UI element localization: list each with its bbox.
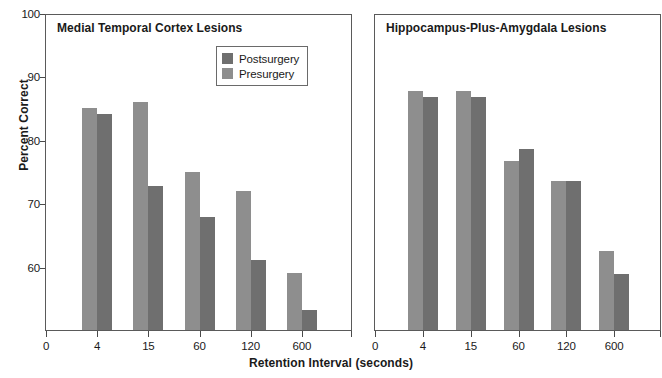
x-tick-label-600: 600 [293,340,312,352]
bar-presurgery-60 [504,161,519,330]
panel-hippocampus-plus-amygdala: Hippocampus-Plus-Amygdala Lesions [374,14,661,331]
x-tick-mark-60 [519,331,520,337]
bar-postsurgery-120 [566,181,581,330]
x-tick-mark-4 [97,331,98,337]
bar-postsurgery-15 [471,97,486,330]
x-tick-mark-4 [423,331,424,337]
bar-postsurgery-4 [423,97,438,330]
x-tick-mark-600 [614,331,615,337]
y-axis-label: Percent Correct [17,45,31,205]
plot-area-right [375,15,660,330]
x-tick-mark-120 [251,331,252,337]
x-tick-label-60: 60 [512,340,524,352]
legend-item-postsurgery: Postsurgery [222,51,299,66]
y-tick-label-100: 100 [21,8,40,20]
x-tick-label-60: 60 [193,340,205,352]
bar-postsurgery-15 [148,186,163,330]
legend-item-presurgery: Presurgery [222,66,299,81]
bar-group-4 [82,15,112,330]
x-tick-mark-60 [200,331,201,337]
bar-presurgery-15 [133,102,148,330]
x-tick-label-120: 120 [241,340,260,352]
x-tick-mark-0 [46,331,47,337]
x-tick-label-15: 15 [142,340,154,352]
x-tick-mark-600 [302,331,303,337]
panel-medial-temporal-cortex: Medial Temporal Cortex Lesions Postsurge… [45,14,352,331]
bar-group-4 [408,15,438,330]
bar-group-15 [133,15,163,330]
x-tick-mark-end [351,331,352,337]
bar-group-600 [599,15,629,330]
x-tick-label-4: 4 [420,340,426,352]
bar-postsurgery-4 [97,114,112,330]
x-tick-label-0: 0 [372,340,378,352]
legend-label-postsurgery: Postsurgery [239,53,299,65]
bar-group-15 [456,15,486,330]
x-tick-label-0: 0 [43,340,49,352]
y-tick-label-60: 60 [28,262,40,274]
x-tick-label-120: 120 [557,340,576,352]
bar-presurgery-120 [551,181,566,330]
x-axis-label: Retention Interval (seconds) [0,356,662,370]
x-tick-label-15: 15 [464,340,476,352]
legend-swatch-presurgery [222,68,233,79]
legend-label-presurgery: Presurgery [239,68,294,80]
bar-postsurgery-600 [614,274,629,330]
bar-postsurgery-600 [302,310,317,330]
legend: Postsurgery Presurgery [216,46,308,86]
legend-swatch-postsurgery [222,53,233,64]
x-tick-mark-0 [375,331,376,337]
bar-presurgery-600 [599,251,614,330]
x-tick-label-600: 600 [605,340,624,352]
x-tick-mark-120 [566,331,567,337]
x-tick-mark-15 [148,331,149,337]
bar-postsurgery-120 [251,260,266,330]
bar-presurgery-4 [82,108,97,330]
bar-group-60 [185,15,215,330]
x-tick-mark-15 [471,331,472,337]
x-tick-label-4: 4 [94,340,100,352]
bar-postsurgery-60 [519,149,534,330]
x-tick-mark-end [660,331,661,337]
bar-presurgery-120 [236,191,251,330]
bar-postsurgery-60 [200,217,215,330]
bar-presurgery-600 [287,273,302,330]
bar-presurgery-15 [456,91,471,330]
bar-presurgery-4 [408,91,423,330]
bar-group-60 [504,15,534,330]
bar-presurgery-60 [185,172,200,330]
bar-group-120 [551,15,581,330]
figure: 60708090100 Percent Correct Medial Tempo… [0,0,662,378]
